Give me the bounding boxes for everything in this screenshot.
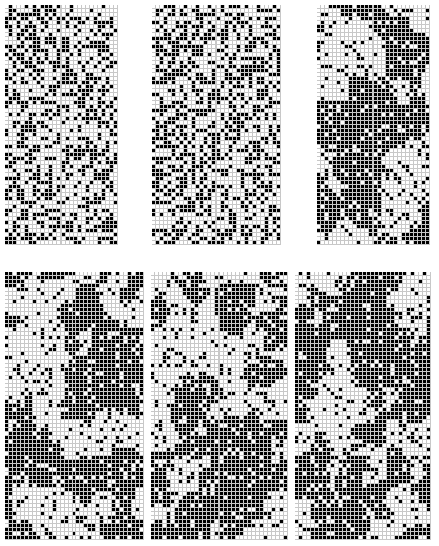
heatmap-canvas [151,272,288,540]
heatmap-canvas [5,272,144,540]
heatmap-canvas [295,272,431,540]
heatmap-panel-top-left [5,5,118,245]
heatmap-panel-top-middle [152,5,281,245]
figure-panel-grid [0,0,439,546]
heatmap-panel-bottom-left [5,272,144,540]
heatmap-canvas [317,5,430,245]
heatmap-canvas [5,5,118,245]
heatmap-panel-bottom-middle [151,272,288,540]
heatmap-panel-top-right [317,5,430,245]
heatmap-panel-bottom-right [295,272,431,540]
heatmap-canvas [152,5,281,245]
